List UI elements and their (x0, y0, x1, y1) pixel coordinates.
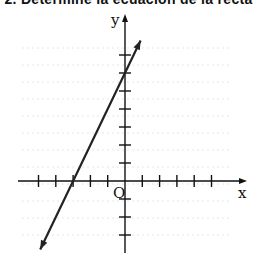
x-axis-label: x (238, 184, 247, 202)
line-arrow-up-icon (134, 41, 141, 51)
coordinate-plane: xyO (0, 0, 257, 253)
line-arrow-down-icon (40, 240, 47, 250)
y-axis-arrow-icon (122, 14, 128, 22)
y-axis-label: y (110, 11, 120, 29)
origin-label: O (113, 184, 125, 202)
